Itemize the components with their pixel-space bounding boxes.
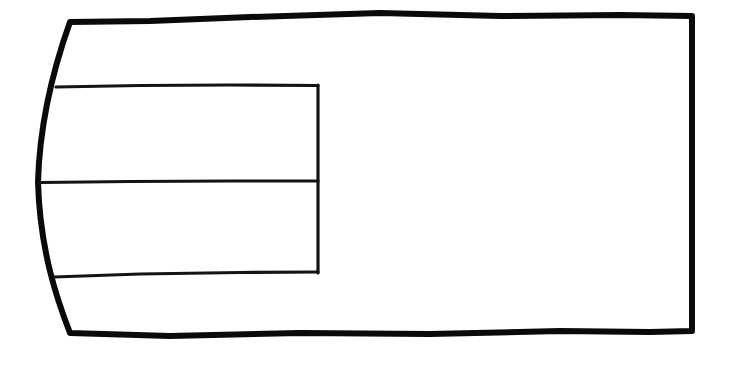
diagram-canvas [0,0,730,369]
inner-upper-cell[interactable] [42,87,317,180]
outer-right-area[interactable] [322,90,688,272]
inner-lower-cell[interactable] [42,183,317,275]
outer-bottom-strip[interactable] [58,276,688,329]
inner-table-top-edge[interactable] [56,85,318,87]
diagram-svg-root [0,0,730,369]
region-hit-areas[interactable] [42,20,688,329]
inner-table-row-divider[interactable] [40,181,318,183]
outer-top-strip[interactable] [58,20,688,83]
